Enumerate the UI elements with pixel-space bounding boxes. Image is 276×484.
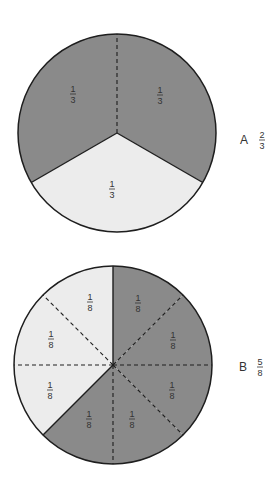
fraction-numerator: 1 — [86, 409, 91, 419]
sector-fraction-label: 13 — [70, 84, 76, 105]
circle-diagram-a: 131313 A 2 3 — [18, 34, 265, 232]
fraction-denominator: 8 — [169, 391, 174, 401]
sector-fraction-label: 13 — [157, 85, 163, 106]
fraction-denominator: 8 — [86, 420, 91, 430]
sector-fraction-label: 18 — [86, 409, 92, 430]
caption-a-denominator: 3 — [259, 141, 264, 151]
fraction-numerator: 1 — [129, 409, 134, 419]
sector-fraction-label: 18 — [169, 380, 175, 401]
caption-letter-a: A — [240, 133, 248, 147]
fraction-numerator: 1 — [135, 293, 140, 303]
fraction-numerator: 1 — [109, 179, 114, 189]
sector-fraction-label: 18 — [87, 292, 93, 313]
caption-b-denominator: 8 — [257, 368, 262, 378]
sector-fraction-label: 18 — [135, 293, 141, 314]
caption-a-numerator: 2 — [259, 130, 264, 140]
sector-fraction-label: 18 — [129, 409, 135, 430]
sector-fraction-label: 18 — [48, 329, 54, 350]
fraction-numerator: 1 — [170, 330, 175, 340]
fraction-numerator: 1 — [87, 292, 92, 302]
fraction-denominator: 3 — [109, 190, 114, 200]
fraction-numerator: 1 — [157, 85, 162, 95]
fraction-denominator: 8 — [47, 391, 52, 401]
caption-fraction-a: 2 3 — [259, 130, 265, 151]
caption-letter-b: B — [239, 360, 247, 374]
fraction-denominator: 8 — [170, 341, 175, 351]
fraction-circles-diagram: 131313 A 2 3 1818181818181818 B 5 8 — [0, 0, 276, 484]
fraction-denominator: 8 — [87, 303, 92, 313]
fraction-denominator: 3 — [157, 96, 162, 106]
sector-fraction-label: 13 — [109, 179, 115, 200]
fraction-denominator: 8 — [48, 340, 53, 350]
circle-a-caption: A 2 3 — [240, 130, 265, 151]
fraction-numerator: 1 — [47, 380, 52, 390]
circle-diagram-b: 1818181818181818 B 5 8 — [14, 266, 263, 464]
fraction-denominator: 8 — [129, 420, 134, 430]
circle-b-caption: B 5 8 — [239, 357, 263, 378]
caption-b-numerator: 5 — [257, 357, 262, 367]
fraction-denominator: 3 — [70, 95, 75, 105]
fraction-numerator: 1 — [48, 329, 53, 339]
caption-fraction-b: 5 8 — [257, 357, 263, 378]
fraction-numerator: 1 — [70, 84, 75, 94]
sector-fraction-label: 18 — [47, 380, 53, 401]
fraction-denominator: 8 — [135, 304, 140, 314]
sector-fraction-label: 18 — [170, 330, 176, 351]
fraction-numerator: 1 — [169, 380, 174, 390]
